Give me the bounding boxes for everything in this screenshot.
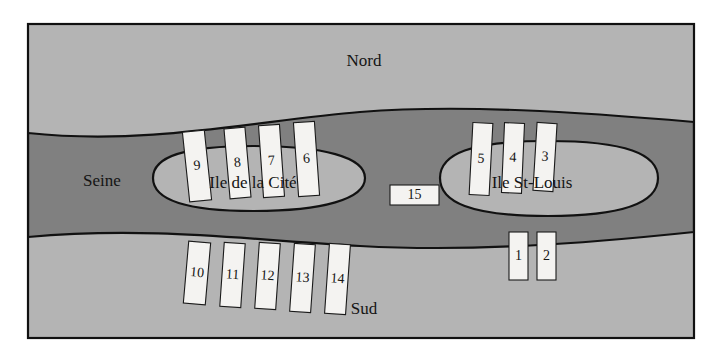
label-sud: Sud [351,299,378,318]
bridge-4-label: 4 [509,150,517,165]
bridge-12: 12 [255,242,281,309]
bridge-1: 1 [509,232,528,280]
bridge-2-label: 2 [543,248,550,263]
bridge-14: 14 [325,243,351,314]
bridge-13: 13 [290,243,316,312]
label-seine: Seine [83,171,121,190]
label-nord: Nord [347,51,382,70]
bridge-12-label: 12 [260,267,275,283]
bridge-3-label: 3 [541,149,549,164]
bridge-5-label: 5 [477,151,485,166]
bridge-10-label: 10 [189,264,204,280]
bridge-13-label: 13 [295,269,310,285]
bridge-8-label: 8 [233,154,241,170]
label-ile-de-la-cite: Ile de la Cité [209,173,296,192]
bridge-5: 5 [469,123,493,196]
bridge-6-label: 6 [302,150,310,165]
paris-islands-map-figure: 123456789101112131415 Nord Sud Seine Ile… [0,0,719,357]
map-canvas: 123456789101112131415 Nord Sud Seine Ile… [0,0,719,357]
bridge-7-label: 7 [267,152,275,167]
bridge-2: 2 [537,232,556,280]
bridge-11-label: 11 [225,266,239,282]
bridge-15-label: 15 [408,187,422,202]
bridge-15: 15 [390,185,439,205]
bridge-10: 10 [183,241,210,305]
bridge-1-label: 1 [515,248,522,263]
bridge-6: 6 [293,121,319,196]
bridge-11: 11 [220,242,245,307]
bridge-14-label: 14 [330,270,345,286]
label-ile-st-louis: Ile St-Louis [492,173,573,192]
